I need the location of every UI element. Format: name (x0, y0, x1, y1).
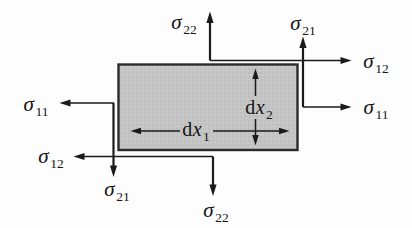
sigma11-left-arrow-icon (60, 100, 115, 107)
sigma12-right-arrow-icon (210, 57, 352, 64)
sigma22-top-arrow-icon (206, 12, 213, 61)
sigma12-left-arrow-icon (74, 153, 214, 160)
sigma11-right-arrow-icon (303, 104, 352, 111)
sigma21-top-arrow-icon (299, 37, 306, 108)
label-sigma11-right: σ11 (364, 97, 389, 118)
stress-element-diagram: σ22 σ21 σ12 σ11 σ11 σ12 σ21 σ22 dx1 dx2 (0, 0, 412, 228)
label-sigma11-left: σ11 (24, 94, 49, 115)
label-dx1: dx1 (182, 119, 210, 139)
label-sigma22-bottom: σ22 (203, 200, 228, 221)
sigma22-bottom-arrow-icon (209, 157, 216, 197)
label-sigma21-bottom: σ21 (104, 179, 129, 200)
label-sigma21-top: σ21 (290, 13, 315, 34)
label-sigma12-left: σ12 (38, 146, 63, 167)
label-dx2: dx2 (245, 97, 273, 117)
label-sigma12-right: σ12 (363, 51, 388, 72)
label-sigma22-top: σ22 (171, 12, 196, 33)
sigma21-bottom-arrow-icon (110, 103, 117, 177)
stress-diagram-canvas (0, 0, 412, 228)
